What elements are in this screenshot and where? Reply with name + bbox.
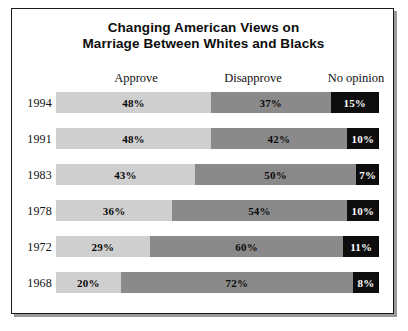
chart-title: Changing American Views on Marriage Betw… bbox=[12, 20, 395, 52]
bar-segment-value: 48% bbox=[122, 97, 145, 109]
bar-segment-value: 29% bbox=[92, 241, 115, 253]
bar-rows: 199448%37%15%199148%42%10%198343%50%7%19… bbox=[12, 92, 395, 308]
year-label: 1972 bbox=[12, 239, 52, 254]
bar-segment-value: 48% bbox=[122, 133, 145, 145]
bar-segment-no-opinion: 15% bbox=[331, 92, 379, 113]
column-headers: Approve Disapprove No opinion bbox=[12, 71, 395, 87]
bar-segment-value: 60% bbox=[235, 241, 258, 253]
bar-segment-approve: 43% bbox=[56, 164, 195, 185]
bar-track: 29%60%11% bbox=[56, 236, 379, 257]
bar-segment-approve: 48% bbox=[56, 128, 211, 149]
bar-track: 48%37%15% bbox=[56, 92, 379, 113]
bar-segment-no-opinion: 10% bbox=[347, 128, 379, 149]
bar-track: 20%72%8% bbox=[56, 272, 379, 293]
bar-segment-disapprove: 54% bbox=[172, 200, 346, 221]
year-label: 1983 bbox=[12, 167, 52, 182]
year-label: 1968 bbox=[12, 275, 52, 290]
bar-segment-no-opinion: 8% bbox=[353, 272, 379, 293]
year-label: 1991 bbox=[12, 131, 52, 146]
bar-track: 43%50%7% bbox=[56, 164, 379, 185]
bar-segment-value: 7% bbox=[359, 169, 376, 181]
column-header-disapprove: Disapprove bbox=[224, 71, 282, 86]
bar-segment-value: 20% bbox=[77, 277, 100, 289]
bar-segment-value: 15% bbox=[343, 97, 366, 109]
bar-row: 197836%54%10% bbox=[12, 200, 395, 221]
bar-segment-no-opinion: 7% bbox=[356, 164, 379, 185]
bar-segment-value: 10% bbox=[352, 133, 375, 145]
bar-segment-value: 50% bbox=[264, 169, 287, 181]
bar-segment-disapprove: 50% bbox=[195, 164, 357, 185]
bar-track: 36%54%10% bbox=[56, 200, 379, 221]
chart-title-line-2: Marriage Between Whites and Blacks bbox=[12, 36, 395, 52]
column-header-approve: Approve bbox=[114, 71, 158, 86]
bar-segment-approve: 29% bbox=[56, 236, 150, 257]
year-label: 1994 bbox=[12, 95, 52, 110]
bar-segment-approve: 36% bbox=[56, 200, 172, 221]
bar-segment-value: 11% bbox=[350, 241, 372, 253]
bar-segment-value: 37% bbox=[259, 97, 282, 109]
bar-segment-value: 36% bbox=[103, 205, 126, 217]
bar-segment-value: 10% bbox=[352, 205, 375, 217]
bar-segment-no-opinion: 11% bbox=[343, 236, 379, 257]
bar-segment-approve: 48% bbox=[56, 92, 211, 113]
bar-row: 196820%72%8% bbox=[12, 272, 395, 293]
bar-segment-no-opinion: 10% bbox=[347, 200, 379, 221]
bar-segment-disapprove: 72% bbox=[121, 272, 354, 293]
bar-row: 197229%60%11% bbox=[12, 236, 395, 257]
bar-segment-value: 43% bbox=[114, 169, 137, 181]
bar-segment-value: 8% bbox=[358, 277, 375, 289]
bar-segment-approve: 20% bbox=[56, 272, 121, 293]
bar-segment-value: 72% bbox=[226, 277, 249, 289]
year-label: 1978 bbox=[12, 203, 52, 218]
bar-row: 198343%50%7% bbox=[12, 164, 395, 185]
bar-segment-disapprove: 60% bbox=[150, 236, 344, 257]
column-header-no-opinion: No opinion bbox=[328, 71, 385, 86]
bar-track: 48%42%10% bbox=[56, 128, 379, 149]
bar-segment-disapprove: 37% bbox=[211, 92, 331, 113]
bar-segment-value: 54% bbox=[248, 205, 271, 217]
chart-title-line-1: Changing American Views on bbox=[12, 20, 395, 36]
bar-segment-disapprove: 42% bbox=[211, 128, 347, 149]
bar-row: 199448%37%15% bbox=[12, 92, 395, 113]
bar-row: 199148%42%10% bbox=[12, 128, 395, 149]
bar-segment-value: 42% bbox=[268, 133, 291, 145]
chart-frame: Changing American Views on Marriage Betw… bbox=[11, 8, 394, 314]
